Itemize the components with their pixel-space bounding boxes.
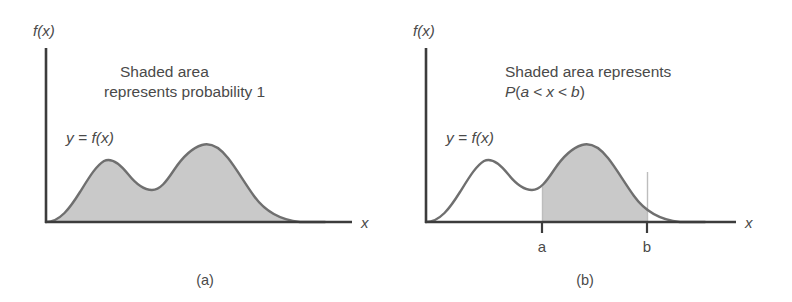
panel-b: f(x) x a b Shaded area represents P(a<x<… xyxy=(396,0,792,302)
note-line-2: represents probability 1 xyxy=(104,83,265,100)
y-axis-label: f(x) xyxy=(413,22,435,39)
probability-density-figure: f(x) x Shaded area represents probabilit… xyxy=(0,0,792,302)
panel-caption: (b) xyxy=(576,272,594,288)
panel-b-plot: f(x) x a b Shaded area represents P(a<x<… xyxy=(396,0,792,302)
tick-label-a: a xyxy=(538,238,547,255)
panel-a-plot: f(x) x Shaded area represents probabilit… xyxy=(0,0,396,302)
note-line-2: P(a<x<b) xyxy=(505,83,585,100)
tick-label-b: b xyxy=(643,238,651,255)
curve-label: y = f(x) xyxy=(65,129,114,146)
panel-a: f(x) x Shaded area represents probabilit… xyxy=(0,0,396,302)
note-a: a xyxy=(521,83,530,100)
x-axis-label: x xyxy=(744,214,753,231)
note-line-1: Shaded area xyxy=(120,63,209,80)
curve-label: y = f(x) xyxy=(445,129,494,146)
panel-caption: (a) xyxy=(196,272,214,288)
y-axis-label: f(x) xyxy=(33,22,55,39)
x-axis-label: x xyxy=(360,214,369,231)
note-line-1: Shaded area represents xyxy=(505,63,672,80)
note-lt-2: < xyxy=(558,83,567,100)
note-p: P xyxy=(505,83,516,100)
note-lt-1: < xyxy=(533,83,542,100)
note-paren-close: ) xyxy=(580,83,585,100)
note-x: x xyxy=(545,83,555,100)
